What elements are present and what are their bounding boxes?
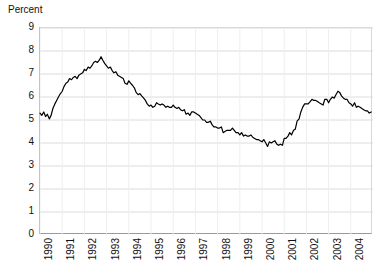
y-tick-label: 5 (8, 114, 34, 124)
y-tick-label: 7 (8, 68, 34, 78)
y-axis-tick-labels: 0123456789 (4, 0, 34, 276)
x-tick-label: 1997 (199, 238, 209, 260)
x-tick-label: 2000 (266, 238, 276, 260)
x-axis-tick-labels: 1990199119921993199419951996199719981999… (39, 236, 372, 276)
x-tick-label: 1992 (88, 238, 98, 260)
x-tick-label: 1993 (111, 238, 121, 260)
series-line-svg (39, 27, 374, 236)
x-tick-label: 1998 (222, 238, 232, 260)
y-tick-label: 3 (8, 160, 34, 170)
x-tick-label: 1995 (155, 238, 165, 260)
y-tick-label: 0 (8, 229, 34, 239)
y-tick-label: 4 (8, 137, 34, 147)
x-tick-label: 2004 (355, 238, 365, 260)
x-tick-label: 2003 (333, 238, 343, 260)
x-tick-label: 2001 (288, 238, 298, 260)
y-tick-label: 9 (8, 22, 34, 32)
plot-area (39, 27, 372, 234)
x-tick-label: 1996 (177, 238, 187, 260)
x-tick-label: 1994 (133, 238, 143, 260)
chart-container: Percent 0123456789 199019911992199319941… (0, 0, 390, 276)
y-tick-label: 2 (8, 183, 34, 193)
y-tick-label: 1 (8, 206, 34, 216)
y-tick-label: 8 (8, 45, 34, 55)
gridlines (40, 28, 373, 212)
y-tick-label: 6 (8, 91, 34, 101)
x-tick-label: 1991 (66, 238, 76, 260)
x-gridlines (40, 28, 351, 235)
series-line-percent (40, 57, 371, 147)
x-tick-label: 1999 (244, 238, 254, 260)
x-tick-label: 1990 (44, 238, 54, 260)
x-tick-label: 2002 (310, 238, 320, 260)
